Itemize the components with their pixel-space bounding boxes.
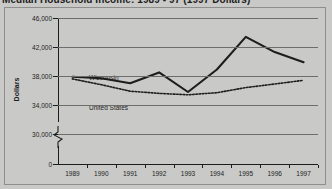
x-axis-tick: [174, 165, 175, 168]
chart-screenshot: Median Household Income: 1989 - 97 (1997…: [0, 0, 332, 189]
plot-area: 46,00042,00038,00034,00030,0000 Dollars …: [5, 8, 325, 184]
y-axis-tick: [53, 164, 58, 165]
x-axis-tick: [145, 165, 146, 168]
x-axis-tick: [202, 165, 203, 168]
x-axis-tick: [116, 165, 117, 168]
gridline: [58, 134, 318, 135]
gridline: [58, 18, 318, 19]
gridline: [58, 105, 318, 106]
x-axis-tick: [289, 165, 290, 168]
x-axis-tick: [231, 165, 232, 168]
page-title: Median Household Income: 1989 - 97 (1997…: [2, 0, 250, 5]
wisconsin-line: [72, 37, 303, 92]
chart-frame: 46,00042,00038,00034,00030,0000 Dollars …: [4, 7, 326, 185]
gridline: [58, 47, 318, 48]
x-axis-tick: [87, 165, 88, 168]
x-axis-tick: [260, 165, 261, 168]
chart-title-strip: Median Household Income: 1989 - 97 (1997…: [0, 0, 332, 7]
series-lines: [5, 8, 325, 184]
x-axis-tick-label: 1997: [284, 170, 324, 178]
x-axis-tick: [318, 165, 319, 168]
gridline: [58, 76, 318, 77]
